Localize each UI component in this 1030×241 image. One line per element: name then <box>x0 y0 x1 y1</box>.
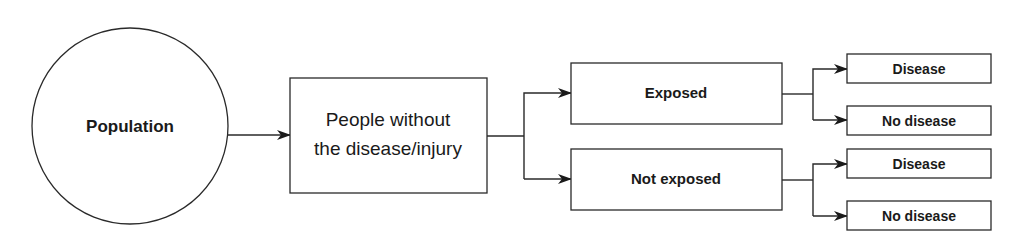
not-exposed-no-disease-node: No disease <box>847 201 991 230</box>
branch-not-exposed-outcomes <box>782 164 847 216</box>
exposed-label: Exposed <box>645 84 708 101</box>
edge-not-exposed-to-disease <box>813 164 847 216</box>
not-exposed-no-disease-label: No disease <box>882 208 956 224</box>
not-exposed-label: Not exposed <box>631 170 721 187</box>
not-exposed-disease-node: Disease <box>847 149 991 178</box>
exposed-node: Exposed <box>571 63 782 124</box>
exposed-disease-label: Disease <box>893 61 946 77</box>
population-label: Population <box>86 117 174 136</box>
not-exposed-disease-label: Disease <box>893 156 946 172</box>
branch-exposed-outcomes <box>782 69 847 120</box>
edge-exposed-to-disease <box>813 69 847 120</box>
exposed-no-disease-label: No disease <box>882 113 956 129</box>
people-without-box <box>290 78 487 193</box>
exposed-no-disease-node: No disease <box>847 106 991 135</box>
not-exposed-node: Not exposed <box>571 149 782 210</box>
edge-to-exposed <box>524 93 571 179</box>
people-without-node: People without the disease/injury <box>290 78 487 193</box>
population-node: Population <box>32 28 228 224</box>
people-without-label-line1: People without <box>326 109 451 130</box>
exposed-disease-node: Disease <box>847 54 991 83</box>
cohort-study-diagram: Population People without the disease/in… <box>0 0 1030 241</box>
people-without-label-line2: the disease/injury <box>314 138 462 159</box>
branch-exposure <box>487 93 571 179</box>
